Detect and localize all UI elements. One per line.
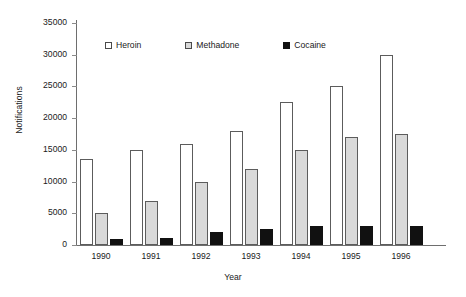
y-tick-label: 35000 — [43, 17, 67, 27]
bar-heroin-1996 — [380, 55, 393, 245]
y-tick-label: 25000 — [43, 80, 67, 90]
bar-methadone-1993 — [245, 169, 258, 245]
bar-heroin-1995 — [330, 86, 343, 245]
bar-methadone-1994 — [295, 150, 308, 245]
y-tick-label: 20000 — [43, 112, 67, 122]
bar-methadone-1996 — [395, 134, 408, 245]
bar-chart-figure: Notifications 05000100001500020000250003… — [0, 0, 466, 297]
bar-heroin-1991 — [130, 150, 143, 245]
bar-methadone-1992 — [195, 182, 208, 245]
y-tick-mark — [72, 245, 77, 246]
y-axis-title: Notifications — [14, 55, 24, 165]
y-tick-label: 15000 — [43, 144, 67, 154]
bar-methadone-1995 — [345, 137, 358, 245]
y-tick-label: 30000 — [43, 49, 67, 59]
y-tick-label: 0 — [62, 239, 67, 249]
y-tick-label: 10000 — [43, 176, 67, 186]
bar-cocaine-1990 — [110, 239, 123, 245]
bar-cocaine-1993 — [260, 229, 273, 245]
bar-methadone-1991 — [145, 201, 158, 245]
bar-cocaine-1991 — [160, 238, 173, 245]
bar-methadone-1990 — [95, 213, 108, 245]
bar-heroin-1990 — [80, 159, 93, 245]
bar-cocaine-1996 — [410, 226, 423, 245]
x-tick-label-1996: 1996 — [371, 251, 431, 261]
bar-heroin-1994 — [280, 102, 293, 245]
bar-cocaine-1992 — [210, 232, 223, 245]
plot-area — [76, 23, 442, 245]
bar-heroin-1993 — [230, 131, 243, 245]
bar-cocaine-1995 — [360, 226, 373, 245]
x-axis-title: Year — [0, 272, 466, 282]
x-axis-line — [76, 245, 446, 246]
y-tick-label: 5000 — [48, 207, 67, 217]
bar-heroin-1992 — [180, 144, 193, 245]
bar-cocaine-1994 — [310, 226, 323, 245]
